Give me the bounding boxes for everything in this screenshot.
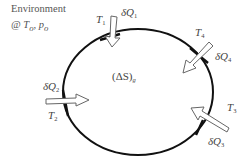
temp-label-1: T1 <box>96 13 105 26</box>
environment-title: Environment <box>11 3 66 14</box>
temp-label-3: T3 <box>227 101 236 114</box>
boundary-tick-3 <box>196 120 203 135</box>
temp-label-4: T4 <box>195 26 204 39</box>
heat-label-3: δQ3 <box>208 135 224 148</box>
heat-label-4: δQ4 <box>215 50 231 63</box>
entropy-generation-label: (ΔS)g <box>112 70 136 83</box>
heat-label-1: δQ1 <box>121 6 137 19</box>
temp-label-2: T2 <box>48 109 57 122</box>
heat-label-2: δQ2 <box>43 80 59 93</box>
heat-arrow-2 <box>46 94 89 106</box>
environment-conditions: @ To, po <box>11 19 48 33</box>
